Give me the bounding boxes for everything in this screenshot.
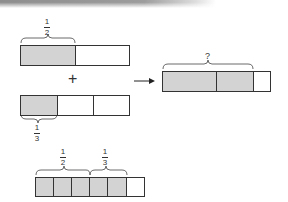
- denominator: 2: [61, 159, 65, 167]
- fraction-label-one-third-bottom: 1 3: [102, 148, 108, 167]
- denominator: 3: [35, 135, 39, 143]
- bar-cell-shaded: [21, 96, 58, 115]
- fraction-label-one-half-bottom: 1 2: [60, 148, 66, 167]
- numerator: 1: [61, 148, 65, 156]
- bar-cell-shaded: [36, 178, 54, 196]
- brace-bottom-third: [90, 166, 127, 175]
- bar-cell: [76, 46, 129, 65]
- question-mark-label: ?: [205, 51, 210, 61]
- arrowhead-icon: [149, 78, 155, 84]
- bar-cell: [58, 96, 94, 115]
- numerator: 1: [35, 124, 39, 132]
- bar-cell: [127, 178, 144, 196]
- fraction-bar-result: [162, 71, 271, 92]
- numerator: 1: [45, 18, 49, 26]
- denominator: 2: [45, 29, 49, 37]
- fraction-bar-halves: [20, 45, 130, 66]
- brace-bottom-half: [36, 166, 90, 175]
- fraction-bar-thirds: [20, 95, 130, 116]
- bar-cell-shaded: [163, 72, 217, 91]
- bar-cell: [254, 72, 270, 91]
- bar-cell-shaded: [54, 178, 72, 196]
- bar-cell-shaded: [21, 46, 76, 65]
- bar-cell-shaded: [72, 178, 90, 196]
- numerator: 1: [103, 148, 107, 156]
- fraction-label-one-third: 1 3: [34, 124, 40, 143]
- fraction-label-one-half: 1 2: [44, 18, 50, 37]
- brace-result: [163, 60, 253, 69]
- bar-cell-shaded: [108, 178, 127, 196]
- plus-sign: +: [68, 70, 77, 88]
- bar-cell-shaded: [90, 178, 108, 196]
- denominator: 3: [103, 159, 107, 167]
- fraction-bar-sixths: [35, 177, 145, 197]
- bar-cell-shaded: [217, 72, 254, 91]
- bar-cell: [94, 96, 129, 115]
